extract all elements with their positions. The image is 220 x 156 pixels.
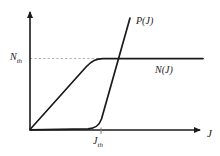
nth-base: N [10, 51, 17, 62]
jth-subscript: th [97, 141, 102, 149]
carrier-density-curve [30, 59, 203, 130]
carrier-label-text: N(J) [155, 64, 173, 75]
x-axis-name-text: J [207, 127, 212, 139]
x-axis-name: J [207, 128, 212, 139]
curve-label-carrier: N(J) [155, 65, 173, 75]
x-axis-tick-label-jth: Jth [93, 136, 103, 149]
laser-characteristic-figure: Nth Jth P(J) N(J) J [0, 0, 220, 156]
power-label-text: P(J) [136, 15, 153, 26]
plot-canvas [0, 0, 220, 156]
curve-label-power: P(J) [136, 16, 153, 26]
nth-subscript: th [17, 57, 22, 65]
y-axis-tick-label-nth: Nth [10, 52, 22, 65]
